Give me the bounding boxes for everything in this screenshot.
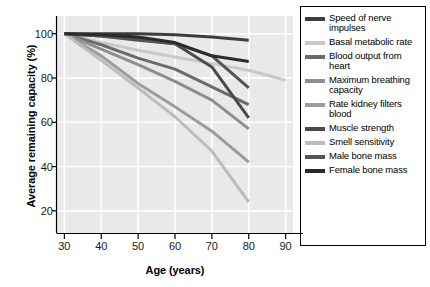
legend-item-label: Maximum breathing capacity bbox=[329, 75, 421, 95]
legend-swatch-icon bbox=[305, 17, 325, 21]
legend-swatch-icon bbox=[305, 141, 325, 145]
chart-figure: Average remaining capacity (%) Age (year… bbox=[0, 0, 430, 287]
x-axis-tick-70: 70 bbox=[197, 240, 227, 252]
legend-item-label: Smell sensitivity bbox=[329, 137, 421, 147]
legend-item-label: Female bone mass bbox=[329, 165, 421, 175]
legend-item[interactable]: Speed of nerve impulses bbox=[303, 13, 421, 33]
legend-swatch-icon bbox=[305, 127, 325, 131]
y-axis-tick-80: 80 bbox=[19, 73, 53, 83]
x-axis-tick-40: 40 bbox=[86, 240, 116, 252]
legend-item[interactable]: Blood output from heart bbox=[303, 51, 421, 71]
legend-item[interactable]: Female bone mass bbox=[303, 165, 421, 175]
x-axis-tick-60: 60 bbox=[160, 240, 190, 252]
legend-item[interactable]: Male bone mass bbox=[303, 151, 421, 161]
legend-item-label: Basal metabolic rate bbox=[329, 37, 421, 47]
y-axis-tick-60: 60 bbox=[19, 117, 53, 127]
legend-item[interactable]: Maximum breathing capacity bbox=[303, 75, 421, 95]
plot-area bbox=[57, 16, 293, 233]
x-axis-tick-30: 30 bbox=[49, 240, 79, 252]
x-axis-tick-80: 80 bbox=[234, 240, 264, 252]
plot-canvas bbox=[57, 16, 293, 233]
y-axis-tick-20: 20 bbox=[19, 206, 53, 216]
legend-swatch-icon bbox=[305, 41, 325, 45]
legend-item-label: Male bone mass bbox=[329, 151, 421, 161]
x-axis-tick-50: 50 bbox=[123, 240, 153, 252]
legend-item[interactable]: Muscle strength bbox=[303, 123, 421, 133]
legend-item-label: Blood output from heart bbox=[329, 51, 421, 71]
series-line bbox=[64, 34, 248, 202]
legend-item[interactable]: Smell sensitivity bbox=[303, 137, 421, 147]
legend-item-label: Speed of nerve impulses bbox=[329, 13, 421, 33]
legend-swatch-icon bbox=[305, 79, 325, 83]
legend-item[interactable]: Basal metabolic rate bbox=[303, 37, 421, 47]
x-axis-title: Age (years) bbox=[57, 264, 293, 276]
y-axis-tick-40: 40 bbox=[19, 162, 53, 172]
legend-swatch-icon bbox=[305, 55, 325, 59]
x-axis-tick-90: 90 bbox=[271, 240, 301, 252]
legend-swatch-icon bbox=[305, 169, 325, 173]
y-axis-tick-100: 100 bbox=[19, 29, 53, 39]
legend-item-label: Rate kidney filters blood bbox=[329, 99, 421, 119]
legend-item-label: Muscle strength bbox=[329, 123, 421, 133]
legend-item[interactable]: Rate kidney filters blood bbox=[303, 99, 421, 119]
chart-legend: Speed of nerve impulsesBasal metabolic r… bbox=[300, 6, 426, 246]
legend-swatch-icon bbox=[305, 155, 325, 159]
legend-swatch-icon bbox=[305, 103, 325, 107]
